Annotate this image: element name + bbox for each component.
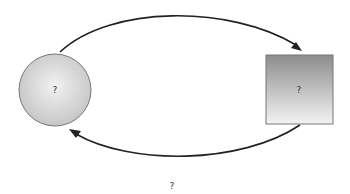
square-label: ?	[297, 85, 302, 95]
edge-bottom-arrow	[76, 125, 300, 156]
edge-top-arrow	[60, 16, 296, 52]
caption-label: ?	[170, 181, 175, 191]
cycle-diagram	[0, 0, 350, 194]
circle-label: ?	[53, 85, 58, 95]
